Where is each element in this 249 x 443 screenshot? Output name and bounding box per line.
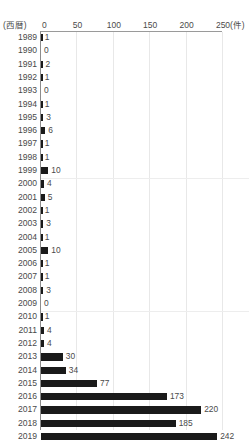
bar-value-label: 1 [45, 231, 50, 244]
bar-value-label: 0 [44, 84, 49, 97]
x-axis-tick-label: 50 [73, 19, 82, 31]
bar [41, 406, 201, 413]
bar-row: 201330 [0, 350, 249, 363]
bar-row: 20114 [0, 324, 249, 337]
y-axis-unit-label: (西暦) [3, 19, 27, 31]
row-year-label: 2001 [0, 191, 37, 204]
bar-row: 20041 [0, 231, 249, 244]
bar-row: 2019242 [0, 430, 249, 443]
bar-value-label: 10 [51, 244, 60, 257]
bar-row: 2017220 [0, 403, 249, 416]
bar-value-label: 34 [69, 364, 78, 377]
row-year-label: 2000 [0, 177, 37, 190]
bar-value-label: 1 [45, 71, 50, 84]
row-year-label: 1990 [0, 44, 37, 57]
x-axis-unit-label: (件) [230, 19, 245, 31]
bar [41, 433, 217, 440]
bar [41, 194, 45, 201]
bar [41, 340, 44, 347]
bar-value-label: 1 [45, 310, 50, 323]
bar [41, 167, 48, 174]
bar-rows: 1989119900199121992119930199411995319966… [0, 31, 249, 433]
bar-row: 20033 [0, 217, 249, 230]
bar-row: 199910 [0, 164, 249, 177]
bar-value-label: 3 [46, 284, 51, 297]
row-year-label: 2009 [0, 297, 37, 310]
bar [41, 220, 43, 227]
bar-row: 19900 [0, 44, 249, 57]
bar-row: 201434 [0, 364, 249, 377]
bar-row: 19981 [0, 151, 249, 164]
bar-value-label: 1 [45, 151, 50, 164]
bar [41, 101, 43, 108]
bar-row: 20090 [0, 297, 249, 310]
row-year-label: 2011 [0, 324, 37, 337]
bar-row: 2018185 [0, 417, 249, 430]
bar [41, 74, 43, 81]
bar-row: 20101 [0, 310, 249, 323]
bar-value-label: 0 [44, 44, 49, 57]
bar-value-label: 4 [47, 324, 52, 337]
bar [41, 393, 167, 400]
bar-row: 19891 [0, 31, 249, 44]
bar-row: 20015 [0, 191, 249, 204]
x-axis-tick-label: 200 [180, 19, 194, 31]
bar-value-label: 1 [45, 270, 50, 283]
bar-row: 20124 [0, 337, 249, 350]
row-year-label: 1996 [0, 124, 37, 137]
bar [41, 140, 43, 147]
bar-row: 20071 [0, 270, 249, 283]
bar [41, 114, 43, 121]
row-year-label: 2018 [0, 417, 37, 430]
row-year-label: 1991 [0, 58, 37, 71]
bar-row: 19921 [0, 71, 249, 84]
row-year-label: 2005 [0, 244, 37, 257]
bar-row: 19930 [0, 84, 249, 97]
bar-row: 20083 [0, 284, 249, 297]
bar-value-label: 1 [45, 137, 50, 150]
row-year-label: 2014 [0, 364, 37, 377]
bar-value-label: 173 [170, 390, 184, 403]
bar [41, 247, 48, 254]
bar-value-label: 10 [51, 164, 60, 177]
bar-value-label: 1 [45, 98, 50, 111]
bar [41, 234, 43, 241]
row-year-label: 1989 [0, 31, 37, 44]
row-year-label: 2006 [0, 257, 37, 270]
bar-row: 20004 [0, 177, 249, 190]
row-year-label: 2019 [0, 430, 37, 443]
bar-value-label: 5 [48, 191, 53, 204]
bar-row: 19971 [0, 137, 249, 150]
bar [41, 313, 43, 320]
bar [41, 287, 43, 294]
bar-row: 19966 [0, 124, 249, 137]
bar-row: 200510 [0, 244, 249, 257]
bar [41, 367, 66, 374]
bar [41, 420, 176, 427]
bar [41, 154, 43, 161]
row-year-label: 1995 [0, 111, 37, 124]
bar-value-label: 0 [44, 297, 49, 310]
x-axis-tick-label: 150 [143, 19, 157, 31]
row-year-label: 2016 [0, 390, 37, 403]
row-year-label: 2007 [0, 270, 37, 283]
row-year-label: 2013 [0, 350, 37, 363]
bar [41, 353, 63, 360]
bar [41, 260, 43, 267]
bar [41, 180, 44, 187]
horizontal-bar-chart: (西暦) 050100150200250(件) 1989119900199121… [0, 0, 249, 443]
row-year-label: 2004 [0, 231, 37, 244]
bar [41, 34, 43, 41]
bar-value-label: 2 [45, 58, 50, 71]
row-year-label: 1993 [0, 84, 37, 97]
bar-value-label: 4 [47, 177, 52, 190]
bar-value-label: 220 [204, 403, 218, 416]
bar-value-label: 1 [45, 31, 50, 44]
bar [41, 273, 43, 280]
row-year-label: 1997 [0, 137, 37, 150]
row-year-label: 1999 [0, 164, 37, 177]
x-axis-header: (西暦) 050100150200250(件) [0, 19, 249, 31]
bar-value-label: 3 [46, 217, 51, 230]
bar [41, 127, 45, 134]
row-year-label: 1992 [0, 71, 37, 84]
